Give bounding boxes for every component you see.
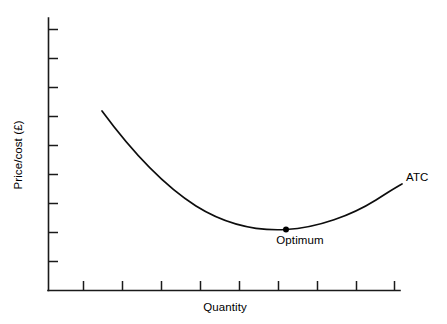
series-label-atc: ATC [406, 172, 428, 184]
y-axis-label-text: Price/cost (£) [13, 120, 25, 189]
x-axis-ticks [84, 281, 395, 291]
chart-canvas [0, 0, 447, 324]
atc-curve [102, 111, 402, 230]
annotation-label-optimum: Optimum [268, 235, 332, 247]
optimum-marker-dot [283, 227, 289, 233]
x-axis-label: Quantity [182, 302, 268, 314]
y-axis-ticks [49, 30, 59, 262]
chart-figure: Price/cost (£) Quantity ATC Optimum [0, 0, 447, 324]
y-axis-label: Price/cost (£) [10, 100, 28, 210]
